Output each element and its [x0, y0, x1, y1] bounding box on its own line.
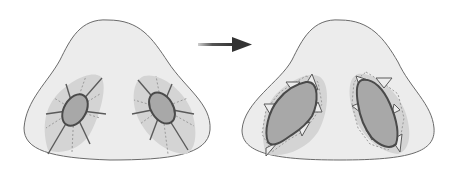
after-panel [242, 20, 434, 160]
before-panel [24, 20, 210, 160]
nasal-expansion-diagram [0, 0, 455, 169]
arrow-right-icon [198, 37, 252, 52]
